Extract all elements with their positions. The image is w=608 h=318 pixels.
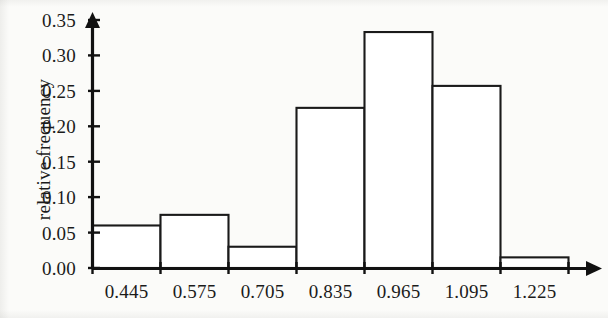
bar-group	[93, 32, 569, 268]
x-tick-label-0: 0.445	[105, 282, 149, 301]
x-axis-arrowhead	[586, 261, 602, 276]
y-tick-label-0: 0.00	[14, 259, 76, 278]
bar-0	[93, 225, 161, 268]
x-tick-label-4: 0.965	[377, 282, 421, 301]
x-tick-label-3: 0.835	[309, 282, 353, 301]
x-tick-label-6: 1.225	[513, 282, 557, 301]
y-tick-label-7: 0.35	[14, 11, 76, 30]
x-tick-label-2: 0.705	[241, 282, 285, 301]
x-tick-label-5: 1.095	[445, 282, 489, 301]
histogram-figure: 0.00 0.05 0.10 0.15 0.20 0.25 0.30 0.35 …	[0, 0, 608, 318]
bar-6	[501, 257, 569, 268]
x-tick-label-1: 0.575	[173, 282, 217, 301]
y-axis-title: relative frequency	[34, 45, 53, 255]
bar-1	[161, 215, 229, 268]
bar-4	[365, 32, 433, 268]
x-axis-tick-labels: 0.445 0.575 0.705 0.835 0.965 1.095 1.22…	[0, 282, 608, 308]
bar-3	[297, 108, 365, 268]
bar-5	[433, 86, 501, 268]
bar-2	[229, 247, 297, 268]
histogram-plot	[0, 0, 608, 318]
